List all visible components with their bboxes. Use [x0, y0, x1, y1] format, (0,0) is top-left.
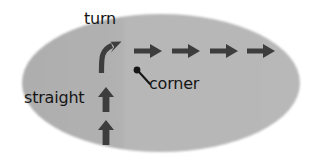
corner-dot	[134, 67, 141, 74]
diagram-figure: turn straight corner	[0, 0, 329, 165]
label-straight: straight	[24, 90, 84, 106]
label-turn: turn	[84, 11, 116, 27]
label-corner: corner	[149, 76, 199, 92]
